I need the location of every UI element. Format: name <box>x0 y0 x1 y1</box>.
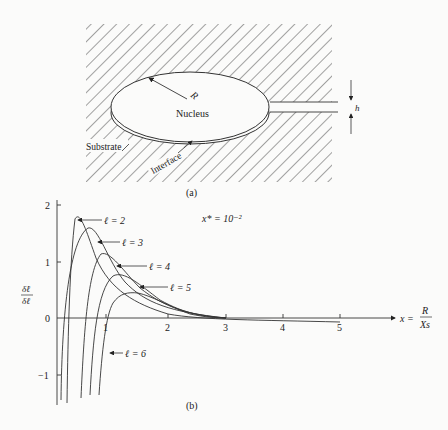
h-label: h <box>355 103 360 113</box>
svg-text:2: 2 <box>165 322 170 333</box>
x-axis-label: x = R Xs <box>399 305 432 330</box>
curve-l2 <box>67 217 340 403</box>
svg-text:Xs: Xs <box>419 319 430 330</box>
parameter-label: x* = 10⁻² <box>201 213 242 224</box>
caption-a: (a) <box>186 187 197 199</box>
curve-label-l2: ℓ = 2 <box>104 215 125 226</box>
svg-text:R: R <box>421 305 428 316</box>
curve-label-l6: ℓ = 6 <box>125 348 146 359</box>
figure-a: R Nucleus Substrate Interface h (a) <box>84 24 360 199</box>
svg-text:δℓ: δℓ <box>22 296 30 306</box>
figure-b <box>57 200 395 405</box>
figure: R Nucleus Substrate Interface h (a) <box>0 0 448 430</box>
svg-text:1: 1 <box>103 322 108 333</box>
svg-text:−1: −1 <box>38 370 49 381</box>
curve-l6 <box>99 293 226 395</box>
curve-label-l3: ℓ = 3 <box>122 237 143 248</box>
curve-l3 <box>61 228 226 400</box>
svg-text:1: 1 <box>45 257 50 268</box>
svg-text:2: 2 <box>45 200 50 211</box>
svg-text:5: 5 <box>337 322 342 333</box>
y-axis-label: δ̇ℓ δℓ <box>21 284 33 306</box>
svg-text:x =: x = <box>399 313 414 324</box>
caption-b: (b) <box>186 400 198 412</box>
curve-l5 <box>90 275 226 395</box>
svg-text:3: 3 <box>223 322 228 333</box>
svg-text:4: 4 <box>280 322 285 333</box>
curve-label-l5: ℓ = 5 <box>170 282 191 293</box>
svg-text:δ̇ℓ: δ̇ℓ <box>22 284 30 294</box>
nucleus-label: Nucleus <box>176 108 209 119</box>
nucleus-ellipse <box>111 72 269 142</box>
curve-label-l4: ℓ = 4 <box>149 261 170 272</box>
height-gap <box>262 102 342 112</box>
svg-text:0: 0 <box>45 313 50 324</box>
substrate-label: Substrate <box>86 142 121 152</box>
